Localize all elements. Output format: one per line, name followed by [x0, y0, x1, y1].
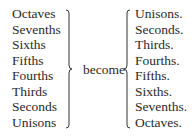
- right-brace-icon: [66, 9, 72, 129]
- list-item: Fifths.: [135, 68, 187, 84]
- list-item: Octaves.: [135, 115, 187, 131]
- left-brace-icon: [124, 9, 130, 129]
- list-item: Fifths: [12, 53, 61, 69]
- list-item: Sixths.: [135, 84, 187, 100]
- list-item: Octaves: [12, 6, 61, 22]
- list-item: Seconds.: [135, 22, 187, 38]
- left-list: Octaves Sevenths Sixths Fifths Fourths T…: [12, 6, 61, 130]
- list-item: Unisons.: [135, 6, 187, 22]
- list-item: Fourths: [12, 68, 61, 84]
- connector-text: become: [83, 62, 125, 78]
- list-item: Seconds: [12, 99, 61, 115]
- list-item: Sevenths.: [135, 99, 187, 115]
- list-item: Thirds.: [135, 37, 187, 53]
- list-item: Fourths.: [135, 53, 187, 69]
- list-item: Sixths: [12, 37, 61, 53]
- list-item: Sevenths: [12, 22, 61, 38]
- list-item: Thirds: [12, 84, 61, 100]
- right-list: Unisons. Seconds. Thirds. Fourths. Fifth…: [135, 6, 187, 130]
- list-item: Unisons: [12, 115, 61, 131]
